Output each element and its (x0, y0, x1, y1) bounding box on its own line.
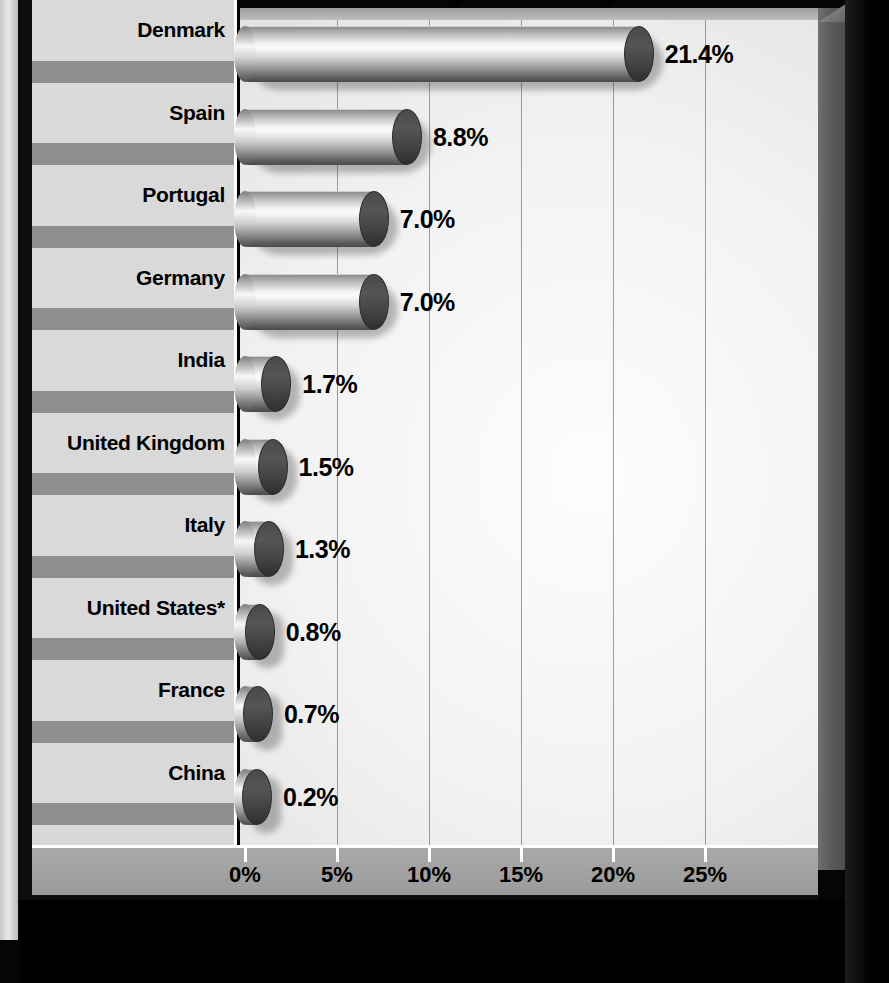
category-separator-band (32, 226, 234, 248)
bar-value-label: 1.3% (295, 535, 350, 564)
category-separator-band (32, 721, 234, 743)
category-label-row: United States* (32, 578, 234, 639)
bar-spain: 8.8% (245, 109, 447, 165)
bar-right-cap (254, 521, 284, 577)
x-axis-line (32, 845, 818, 848)
bar-body (245, 274, 374, 330)
bar-value-label: 7.0% (400, 205, 455, 234)
bar-body (245, 191, 374, 247)
bar-value-label: 0.2% (283, 782, 338, 811)
x-axis-tick-label: 25% (683, 862, 727, 888)
plot-area: 21.4%8.8%7.0%7.0%1.7%1.5%1.3%0.8%0.7%0.2… (240, 20, 818, 845)
category-separator-band (32, 473, 234, 495)
bar-right-cap (258, 439, 288, 495)
x-axis-tick-label: 15% (499, 862, 543, 888)
bar-value-label: 21.4% (665, 40, 733, 69)
category-separator-band (32, 556, 234, 578)
category-separator-band (32, 308, 234, 330)
category-label: France (158, 678, 225, 702)
bar-value-label: 0.7% (284, 700, 339, 729)
bar-value-label: 7.0% (400, 287, 455, 316)
bar-denmark: 21.4% (245, 26, 679, 82)
bar-left-cap (234, 356, 256, 412)
bar-right-cap (624, 26, 654, 82)
x-axis-tick-label: 0% (229, 862, 261, 888)
category-label-row: Germany (32, 248, 234, 309)
category-label: Portugal (142, 183, 225, 207)
category-separator-band (32, 638, 234, 660)
frame-bottom-shadow (20, 900, 889, 983)
x-axis-tick-label: 5% (321, 862, 353, 888)
x-axis-tick-0 (244, 848, 247, 862)
frame-left-highlight (0, 0, 18, 940)
category-separator-band (32, 61, 234, 83)
x-axis-tick-label: 10% (407, 862, 451, 888)
category-label-row: United Kingdom (32, 413, 234, 474)
bar-left-cap (234, 274, 256, 330)
category-label-row: Portugal (32, 165, 234, 226)
x-axis-tick-15 (520, 848, 523, 862)
x-axis-tick-5 (336, 848, 339, 862)
bar-india: 1.7% (245, 356, 316, 412)
category-separator-band (32, 803, 234, 825)
x-axis-tick-25 (704, 848, 707, 862)
category-label-row: Spain (32, 83, 234, 144)
plot-top-edge (240, 8, 818, 20)
bar-france: 0.7% (245, 686, 298, 742)
bar-right-cap (242, 769, 272, 825)
category-label-row: Italy (32, 495, 234, 556)
x-axis: 0%5%10%15%20%25% (32, 845, 818, 895)
bar-left-cap (234, 191, 256, 247)
category-label-row: China (32, 743, 234, 804)
chart-screenshot: Consumption for the year 2000 DenmarkSpa… (0, 0, 889, 983)
bar-value-label: 8.8% (433, 122, 488, 151)
bar-body (245, 26, 639, 82)
category-label: Denmark (137, 18, 225, 42)
bar-left-cap (234, 439, 256, 495)
bar-united-kingdom: 1.5% (245, 439, 313, 495)
category-label: China (168, 761, 225, 785)
bar-right-cap (243, 686, 273, 742)
bar-italy: 1.3% (245, 521, 309, 577)
category-label: United States* (87, 596, 225, 620)
bar-germany: 7.0% (245, 274, 414, 330)
frame-left-shadow (18, 0, 32, 900)
category-label-row: Denmark (32, 0, 234, 61)
bar-value-label: 1.7% (302, 370, 357, 399)
bar-portugal: 7.0% (245, 191, 414, 247)
category-separator-band (32, 391, 234, 413)
bar-united-states: 0.8% (245, 604, 300, 660)
bar-left-cap (234, 521, 256, 577)
bar-series: 21.4%8.8%7.0%7.0%1.7%1.5%1.3%0.8%0.7%0.2… (240, 20, 818, 845)
category-label-panel: DenmarkSpainPortugalGermanyIndiaUnited K… (32, 0, 237, 900)
bar-left-cap (234, 109, 256, 165)
bar-right-cap (245, 604, 275, 660)
frame-right-shadow (845, 0, 889, 983)
x-axis-tick-10 (428, 848, 431, 862)
chart-title: Consumption for the year 2000 (237, 0, 837, 7)
category-label: Spain (169, 101, 225, 125)
bar-left-cap (234, 26, 256, 82)
bar-right-cap (392, 109, 422, 165)
category-label-row: India (32, 330, 234, 391)
category-label-row: France (32, 660, 234, 721)
bar-right-cap (359, 191, 389, 247)
x-axis-tick-20 (612, 848, 615, 862)
category-label: Italy (184, 513, 225, 537)
bar-china: 0.2% (245, 769, 297, 825)
category-label: India (177, 348, 225, 372)
x-axis-tick-label: 20% (591, 862, 635, 888)
bar-right-cap (359, 274, 389, 330)
category-separator-band (32, 143, 234, 165)
category-label: Germany (136, 266, 225, 290)
bar-value-label: 0.8% (286, 617, 341, 646)
bar-value-label: 1.5% (299, 452, 354, 481)
bar-body (245, 109, 407, 165)
category-label: United Kingdom (67, 431, 225, 455)
